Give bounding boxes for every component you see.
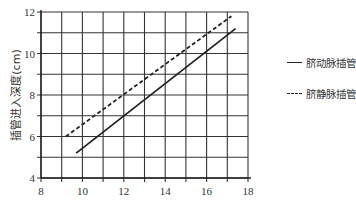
x-tick-label: 10 <box>77 185 89 197</box>
data-series <box>66 16 236 153</box>
legend-label: 脐动脉插管 <box>306 55 356 70</box>
x-tick-label: 18 <box>243 185 255 197</box>
x-axis-tick-labels: 81012141618 <box>38 185 254 197</box>
y-tick-label: 4 <box>30 172 36 184</box>
y-tick-label: 12 <box>24 6 35 18</box>
grid-lines <box>37 12 248 182</box>
x-tick-label: 12 <box>118 185 129 197</box>
dashed-line-swatch-icon <box>287 93 302 94</box>
axes <box>41 10 251 178</box>
y-tick-label: 8 <box>30 89 36 101</box>
legend-label: 脐静脉插管 <box>306 86 356 101</box>
y-axis-label: 插管进入深度(cm) <box>9 49 23 140</box>
x-tick-label: 14 <box>160 185 172 197</box>
legend-item-artery: 脐动脉插管 <box>287 55 356 70</box>
artery-series-line <box>76 29 235 154</box>
y-tick-label: 6 <box>30 131 36 143</box>
x-tick-label: 8 <box>38 185 44 197</box>
solid-line-swatch-icon <box>287 62 302 63</box>
y-axis-tick-labels: 4681012 <box>24 6 36 184</box>
legend-item-vein: 脐静脉插管 <box>287 86 356 101</box>
x-tick-label: 16 <box>201 185 213 197</box>
y-tick-label: 10 <box>24 48 36 60</box>
